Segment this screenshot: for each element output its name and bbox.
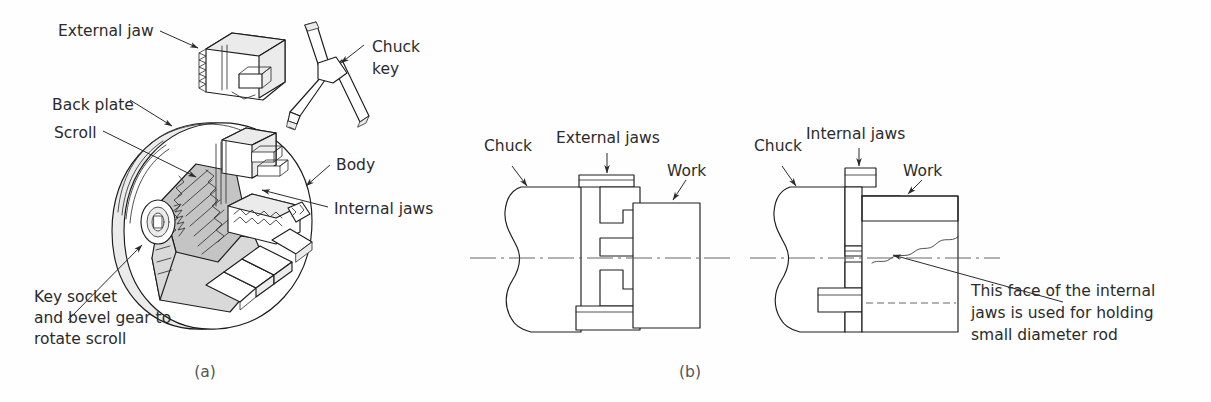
label-key-socket-line2: and bevel gear to <box>34 309 171 327</box>
leader-chuck-left <box>512 166 527 186</box>
jaw-boss-upper-right <box>845 168 876 187</box>
label-key-socket-line3: rotate scroll <box>34 330 126 348</box>
jaw-boss-lower-left <box>576 306 640 330</box>
label-chuck-right: Chuck <box>754 137 802 155</box>
label-internal-jaws-right: Internal jaws <box>806 125 905 143</box>
caption-b: (b) <box>679 363 701 381</box>
leader-chuck-right <box>782 166 796 186</box>
label-chuck-left: Chuck <box>484 137 532 155</box>
jaw-lower-right <box>845 262 862 288</box>
chuck-outline-left <box>505 187 581 332</box>
label-chuck-key-line1: Chuck <box>372 38 420 56</box>
label-chuck-key-line2: key <box>372 60 399 78</box>
chuck-diagram-svg: External jaw Chuck key Back plate Scroll… <box>0 0 1211 402</box>
note-line2: jaws is used for holding <box>970 304 1154 322</box>
workpiece-right <box>862 196 958 332</box>
label-work-right: Work <box>903 162 942 180</box>
note-line3: small diameter rod <box>971 326 1118 344</box>
jaw-boss-lower-right <box>818 288 862 312</box>
label-key-socket-line1: Key socket <box>34 288 117 306</box>
panel-a-group: External jaw Chuck key Back plate Scroll… <box>34 22 433 381</box>
label-body: Body <box>336 156 375 174</box>
label-internal-jaws: Internal jaws <box>334 200 433 218</box>
jaw-foot-right <box>845 312 862 332</box>
panel-b-left-group: Chuck External jaws Work <box>470 129 735 332</box>
figure-container: External jaw Chuck key Back plate Scroll… <box>0 0 1211 402</box>
leader-external-jaw <box>160 31 198 48</box>
chuck-key-part <box>287 22 369 130</box>
label-scroll: Scroll <box>54 124 97 142</box>
label-external-jaw: External jaw <box>58 22 154 40</box>
label-work-left: Work <box>667 162 706 180</box>
leader-work-left <box>673 180 686 200</box>
external-jaw-part <box>199 33 285 100</box>
caption-a: (a) <box>194 363 216 381</box>
panel-b-right-group: Chuck Internal jaws Work This face of th… <box>679 125 1155 381</box>
label-back-plate: Back plate <box>52 96 134 114</box>
leader-chuck-key <box>341 45 364 63</box>
jaw-boss-upper-left <box>579 175 634 187</box>
leader-back-plate <box>130 100 172 126</box>
label-external-jaws-left: External jaws <box>556 129 660 147</box>
workpiece-left <box>633 203 700 328</box>
leader-body <box>306 165 330 186</box>
leader-work-right <box>908 180 922 194</box>
note-line1: This face of the internal <box>970 282 1155 300</box>
